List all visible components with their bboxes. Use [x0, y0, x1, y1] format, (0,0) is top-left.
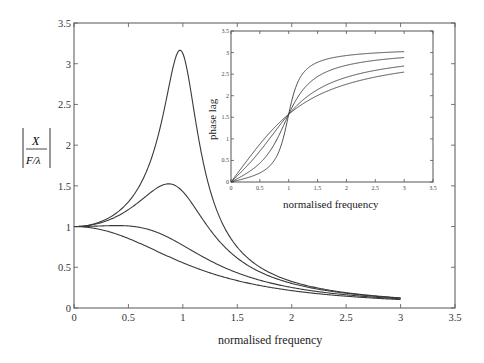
y-tick-label: 3 [226, 50, 229, 56]
y-tick-label: 2 [226, 93, 229, 99]
x-tick-label: 3 [398, 312, 403, 323]
main-y-axis-label: X F/λ [23, 128, 50, 168]
x-tick-label: 3 [403, 185, 406, 191]
y-label-numerator: X [31, 134, 40, 148]
x-tick-label: 1 [180, 312, 185, 323]
y-tick-label: 1.5 [58, 181, 71, 192]
y-tick-label: 0.5 [58, 262, 71, 273]
y-tick-label: 2.5 [58, 99, 71, 110]
inset-x-axis-label: normalised frequency [283, 198, 379, 210]
y-tick-label: 2 [66, 140, 71, 151]
y-tick-label: 1 [226, 136, 229, 142]
y-tick-label: 1.5 [222, 114, 230, 120]
y-tick-label: 3.5 [58, 18, 71, 29]
x-tick-label: 2.5 [372, 185, 380, 191]
x-tick-label: 1 [287, 185, 290, 191]
figure: 00.511.522.533.500.511.522.533.5 normali… [0, 0, 484, 363]
inset-plot-frame [231, 31, 433, 182]
x-tick-label: 1.5 [314, 185, 322, 191]
x-tick-label: 2 [289, 312, 294, 323]
y-tick-label: 0.5 [222, 157, 230, 163]
y-tick-label: 3 [66, 59, 71, 70]
x-tick-label: 3.5 [429, 185, 437, 191]
main-x-axis-label: normalised frequency [218, 333, 322, 347]
x-tick-label: 3.5 [448, 312, 461, 323]
y-tick-label: 3.5 [222, 28, 230, 34]
x-tick-label: 0.5 [256, 185, 264, 191]
x-tick-label: 2 [345, 185, 348, 191]
y-tick-label: 0 [226, 179, 229, 185]
x-tick-label: 0.5 [122, 312, 135, 323]
inset-y-axis-label: phase lag [206, 98, 218, 140]
x-tick-label: 0 [71, 312, 76, 323]
y-tick-label: 2.5 [222, 71, 230, 77]
y-label-denominator: F/λ [25, 154, 41, 166]
x-tick-label: 2.5 [340, 312, 353, 323]
x-tick-label: 1.5 [231, 312, 244, 323]
x-tick-label: 0 [230, 185, 233, 191]
y-tick-label: 1 [66, 222, 71, 233]
y-tick-label: 0 [66, 303, 71, 314]
